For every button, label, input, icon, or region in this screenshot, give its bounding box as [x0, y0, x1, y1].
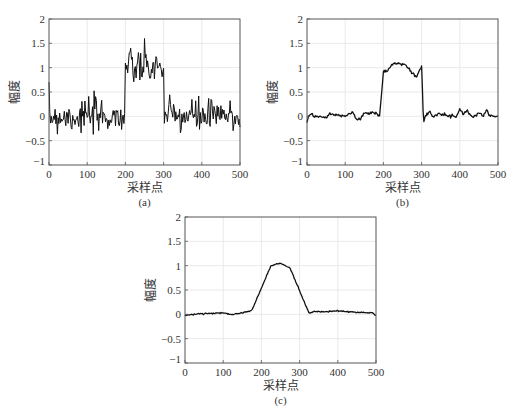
y-tick-label: 0 — [176, 308, 182, 320]
x-tick-label: 100 — [337, 168, 354, 180]
x-axis-label: 采样点 — [263, 378, 299, 393]
y-tick-label: 0 — [40, 110, 46, 122]
panel-caption: (c) — [274, 394, 287, 407]
y-tick-label: 0.5 — [167, 284, 181, 296]
x-tick-label: 200 — [253, 366, 270, 378]
x-tick-label: 300 — [291, 366, 308, 378]
x-tick-label: 500 — [232, 168, 249, 180]
x-tick-label: 500 — [490, 168, 507, 180]
y-tick-label: 1.5 — [31, 37, 45, 49]
y-tick-label: 2 — [298, 13, 304, 25]
y-axis-label: 幅度 — [143, 278, 158, 302]
y-tick-label: 2 — [176, 211, 182, 223]
y-tick-label: −1 — [33, 155, 45, 167]
chart-panel-a: 0100200300400500−1−0.500.511.52采样点幅度(a) — [0, 0, 258, 210]
x-tick-label: 0 — [304, 168, 310, 180]
x-tick-label: 200 — [117, 168, 134, 180]
plot-area-a: 0100200300400500−1−0.500.511.52采样点幅度(a) — [7, 13, 249, 209]
y-tick-label: −1 — [169, 353, 181, 365]
y-tick-label: −0.5 — [283, 135, 303, 147]
signal-line — [307, 63, 498, 123]
y-tick-label: 1.5 — [289, 37, 303, 49]
signal-line — [49, 39, 240, 135]
y-tick-label: 0.5 — [31, 86, 45, 98]
y-tick-label: −0.5 — [25, 135, 45, 147]
y-tick-label: −1 — [291, 155, 303, 167]
x-tick-label: 100 — [79, 168, 96, 180]
x-axis-label: 采样点 — [127, 180, 163, 195]
y-tick-label: −0.5 — [161, 333, 181, 345]
chart-panel-b: 0100200300400500−1−0.500.511.52采样点幅度(b) — [258, 0, 515, 210]
x-tick-label: 100 — [215, 366, 232, 378]
x-tick-label: 400 — [194, 168, 211, 180]
chart-panel-c: 0100200300400500−1−0.500.511.52采样点幅度(c) — [130, 205, 390, 414]
y-tick-label: 1 — [298, 62, 304, 74]
x-tick-label: 300 — [413, 168, 430, 180]
x-tick-label: 400 — [330, 366, 347, 378]
y-tick-label: 0.5 — [289, 86, 303, 98]
x-axis-label: 采样点 — [385, 180, 421, 195]
panel-caption: (b) — [396, 196, 409, 209]
y-axis-label: 幅度 — [7, 80, 22, 104]
x-tick-label: 200 — [375, 168, 392, 180]
y-tick-label: 1 — [176, 260, 182, 272]
y-tick-label: 0 — [298, 110, 304, 122]
x-tick-label: 500 — [368, 366, 385, 378]
x-tick-label: 300 — [155, 168, 172, 180]
plot-area-b: 0100200300400500−1−0.500.511.52采样点幅度(b) — [265, 13, 507, 209]
y-tick-label: 1.5 — [167, 235, 181, 247]
signal-line — [185, 263, 376, 316]
y-tick-label: 1 — [40, 62, 46, 74]
plot-area-c: 0100200300400500−1−0.500.511.52采样点幅度(c) — [143, 211, 385, 407]
y-axis-label: 幅度 — [265, 80, 280, 104]
y-tick-label: 2 — [40, 13, 46, 25]
x-tick-label: 0 — [46, 168, 52, 180]
x-tick-label: 400 — [452, 168, 469, 180]
x-tick-label: 0 — [182, 366, 188, 378]
